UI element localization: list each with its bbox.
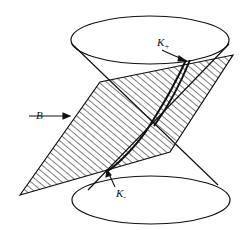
label-plane-b: B [36, 110, 43, 121]
bottom-ellipse [72, 176, 230, 224]
top-ellipse [71, 16, 229, 64]
plane-b [20, 55, 233, 195]
label-k-minus: K- [116, 188, 126, 202]
label-k-plus: K+ [157, 37, 170, 51]
diagram-canvas: K+ B K- [0, 0, 247, 230]
